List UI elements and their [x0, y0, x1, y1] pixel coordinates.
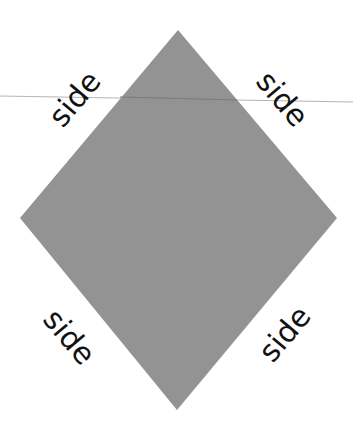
rhombus-diagram: side side side side: [0, 0, 353, 438]
label-bottom-right: side: [251, 299, 317, 369]
label-top-left: side: [41, 64, 107, 134]
label-bottom-left: side: [36, 302, 102, 372]
label-top-right: side: [249, 64, 315, 134]
